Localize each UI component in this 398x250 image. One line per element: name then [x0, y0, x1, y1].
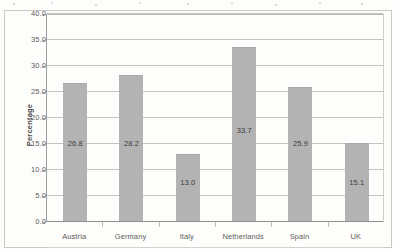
y-axis-tick-label: 5.0 [6, 191, 46, 200]
y-axis-tick-label: 40.0 [6, 9, 46, 18]
category-label: Italy [159, 232, 215, 241]
bar-value-label: 25.9 [293, 139, 308, 148]
bar-group: 25.9 [272, 15, 328, 222]
category-axis: AustriaGermanyItalyNetherlandsSpainUK [46, 222, 384, 248]
category-separator [271, 222, 272, 227]
category-label: Germany [102, 232, 158, 241]
category-axis-rule [46, 247, 384, 248]
y-axis-tick-label: 30.0 [6, 61, 46, 70]
category-label: Austria [46, 232, 102, 241]
gridline [47, 13, 383, 14]
category-separator [215, 222, 216, 227]
category-separator [159, 222, 160, 227]
bar-group: 26.8 [47, 15, 103, 222]
category-separator [102, 222, 103, 227]
bar-chart-figure: Percentage 0.05.010.015.020.025.030.035.… [0, 0, 398, 250]
bar [176, 154, 200, 222]
bar-value-label: 26.8 [68, 139, 83, 148]
bar-value-label: 33.7 [237, 126, 252, 135]
y-axis-tick-label: 0.0 [6, 217, 46, 226]
bar-group: 15.1 [329, 15, 385, 222]
y-axis-tick-label: 25.0 [6, 87, 46, 96]
category-label: UK [328, 232, 384, 241]
bar-group: 13.0 [160, 15, 216, 222]
y-axis-tick-label: 15.0 [6, 139, 46, 148]
y-axis-tick-label: 35.0 [6, 35, 46, 44]
bar-group: 28.2 [103, 15, 159, 222]
category-separator [328, 222, 329, 227]
y-axis-tick-label: 20.0 [6, 113, 46, 122]
plot-area: 26.828.213.033.725.915.1 [46, 14, 384, 222]
bar-value-label: 13.0 [180, 178, 195, 187]
bar-series: 26.828.213.033.725.915.1 [47, 15, 383, 222]
category-label: Spain [271, 232, 327, 241]
bar-value-label: 15.1 [349, 178, 364, 187]
bar [63, 83, 87, 222]
bar-value-label: 28.2 [124, 139, 139, 148]
bar [119, 75, 143, 222]
scan-artifact-band [0, 0, 398, 9]
category-label: Netherlands [215, 232, 271, 241]
bar-group: 33.7 [216, 15, 272, 222]
bar [288, 87, 312, 222]
y-axis-tick-label: 10.0 [6, 165, 46, 174]
